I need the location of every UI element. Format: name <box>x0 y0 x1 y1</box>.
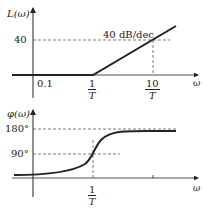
magnitude-y-label: L(ω) <box>7 9 30 19</box>
magnitude-x-label: ω <box>193 78 200 88</box>
phase-curve <box>14 131 176 175</box>
x-tick-1-over-T: 1 T <box>88 78 96 101</box>
magnitude-y-tick-40: 40 <box>14 35 27 45</box>
phase-y-tick-90: 90° <box>11 149 29 159</box>
phase-y-label: φ(ω) <box>7 109 30 119</box>
x-tick-0.1: 0.1 <box>37 79 53 89</box>
phase-x-label: ω <box>193 183 200 193</box>
slope-label: 40 dB/dec <box>103 30 154 40</box>
phase-y-tick-180: 180° <box>5 124 29 134</box>
x-tick-10-over-T: 10 T <box>145 78 160 101</box>
phase-x-tick-1-over-T: 1 T <box>88 184 96 207</box>
bode-diagram: L(ω) 40 40 dB/dec 0.1 1 T 10 T ω φ(ω) 18… <box>0 0 207 213</box>
